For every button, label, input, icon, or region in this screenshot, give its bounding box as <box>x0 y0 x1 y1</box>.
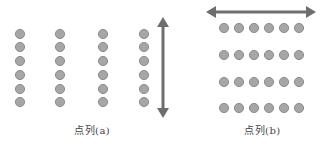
dot <box>98 42 107 51</box>
dot <box>15 42 24 51</box>
caption-b: 点列(b) <box>244 122 281 137</box>
dot <box>249 77 258 86</box>
dot <box>15 70 24 79</box>
dot <box>139 70 148 79</box>
dot <box>234 77 243 86</box>
dot <box>98 56 107 65</box>
caption-a: 点列(a) <box>74 122 110 137</box>
dot <box>264 23 273 32</box>
dot <box>15 56 24 65</box>
dot <box>264 50 273 59</box>
dot <box>15 29 24 38</box>
dot <box>249 23 258 32</box>
dot <box>234 103 243 112</box>
dot <box>279 77 288 86</box>
dot <box>219 77 228 86</box>
dot <box>294 23 303 32</box>
dot <box>219 103 228 112</box>
dot <box>279 23 288 32</box>
dot <box>279 103 288 112</box>
dot <box>234 23 243 32</box>
dot <box>294 50 303 59</box>
dot <box>249 50 258 59</box>
dot <box>55 29 64 38</box>
dot <box>234 50 243 59</box>
dot <box>98 84 107 93</box>
dot <box>139 56 148 65</box>
dot <box>219 23 228 32</box>
dot <box>139 42 148 51</box>
dot <box>55 56 64 65</box>
dot <box>249 103 258 112</box>
dot <box>55 42 64 51</box>
dot <box>264 103 273 112</box>
dot <box>15 97 24 106</box>
dot <box>139 29 148 38</box>
dot <box>219 50 228 59</box>
dot <box>139 97 148 106</box>
dot <box>294 77 303 86</box>
dot <box>55 97 64 106</box>
dot <box>55 84 64 93</box>
horizontal-double-arrow-icon <box>206 6 316 18</box>
dot <box>294 103 303 112</box>
dot <box>55 70 64 79</box>
dot <box>98 29 107 38</box>
dot <box>98 70 107 79</box>
dot <box>98 97 107 106</box>
vertical-double-arrow-icon <box>157 17 169 118</box>
dot <box>264 77 273 86</box>
dot <box>15 84 24 93</box>
dot-array-b <box>219 23 303 112</box>
dot <box>139 84 148 93</box>
dot <box>279 50 288 59</box>
dot-array-a <box>15 29 148 106</box>
